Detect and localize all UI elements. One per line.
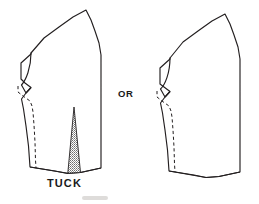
right-pattern-piece bbox=[157, 14, 240, 178]
pattern-illustration-svg bbox=[0, 0, 259, 204]
or-label: OR bbox=[118, 88, 133, 99]
scan-artifact-smudge bbox=[82, 196, 108, 200]
right-piece-outline bbox=[160, 14, 240, 178]
left-piece-outline bbox=[21, 10, 101, 174]
tuck-label: TUCK bbox=[47, 177, 82, 189]
pattern-diagram: TUCK OR bbox=[0, 0, 259, 204]
left-pattern-piece bbox=[18, 10, 101, 174]
